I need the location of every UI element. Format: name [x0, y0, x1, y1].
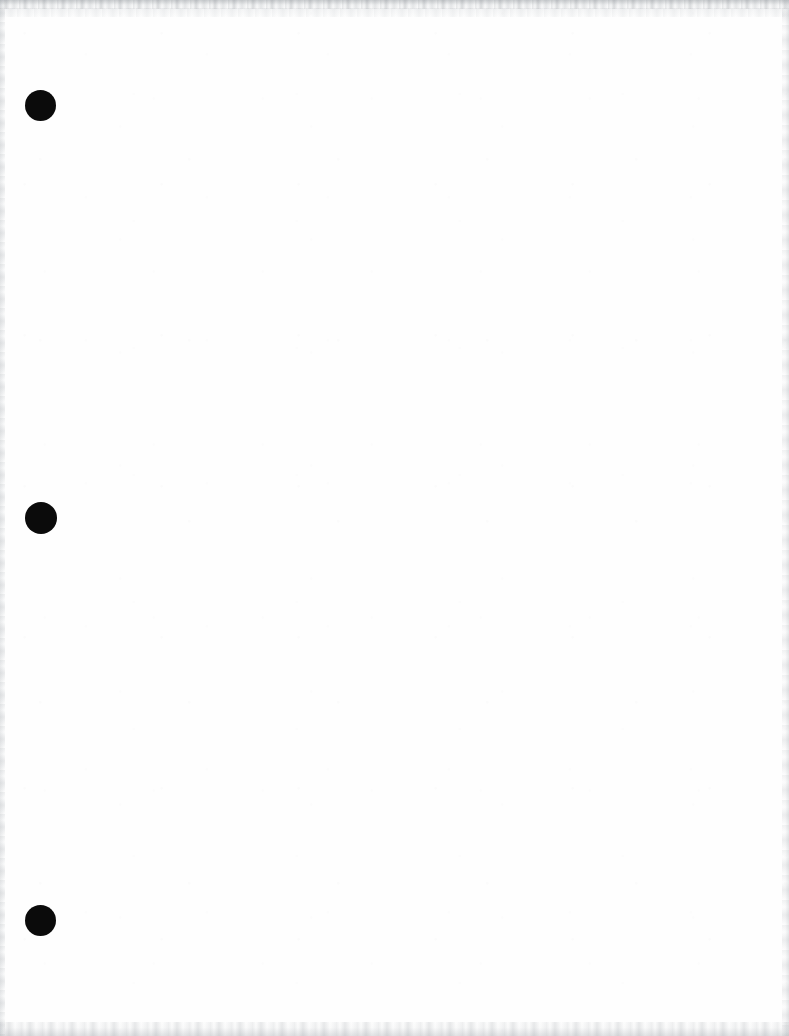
scan-edge-noise-top: [0, 0, 789, 9]
scanned-page: [0, 0, 789, 1036]
scan-edge-noise-left: [0, 0, 5, 1036]
scan-edge-noise-top-fade: [0, 8, 789, 17]
punch-hole-middle: [25, 502, 57, 534]
scan-edge-noise-right: [782, 0, 789, 1036]
scan-edge-noise-bottom: [0, 1022, 789, 1036]
punch-hole-bottom: [25, 905, 56, 936]
punch-hole-top: [25, 90, 56, 121]
